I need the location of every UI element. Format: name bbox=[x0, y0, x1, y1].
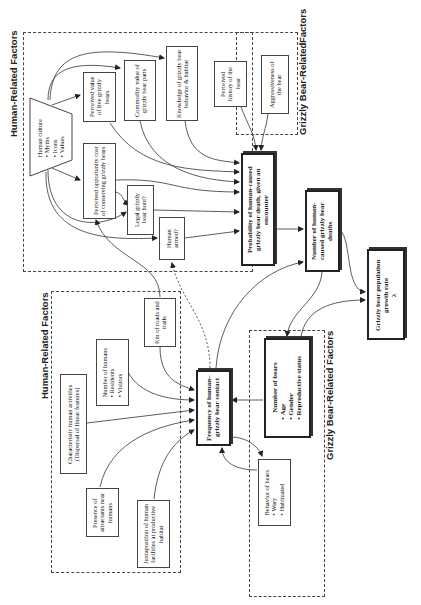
node-aggressiveness: Aggressiveness of the bear bbox=[261, 55, 289, 114]
number-bears-item: Reproductive status bbox=[296, 356, 304, 420]
node-text: Aggressiveness of the bear bbox=[268, 58, 283, 112]
node-text: Number of bears Age Gender Reproductive … bbox=[271, 356, 303, 420]
node-number-bears: Number of bears Age Gender Reproductive … bbox=[264, 338, 311, 438]
node-text: Grizzly bear population growth rate λ bbox=[374, 252, 398, 338]
region-label-top-bear-line1: Grizzly Bear-Related bbox=[298, 43, 308, 135]
node-number-humans: Number of humans Residents Visitors bbox=[96, 339, 129, 406]
node-juxtaposition: Juxtaposition of human facilities at pro… bbox=[137, 500, 170, 568]
node-text: Perceived history of the bear bbox=[219, 64, 241, 104]
node-human-culture: Human culture Myths Icons Values bbox=[32, 110, 70, 166]
node-text: Legal grizzly bear hunt? bbox=[133, 190, 148, 230]
node-opportunity-cost: Perceived opportunity cost of conserving… bbox=[83, 143, 116, 219]
human-culture-item: Values bbox=[58, 119, 65, 157]
human-culture-list: Myths Icons Values bbox=[44, 119, 66, 157]
node-perceived-value: Perceived value of live grizzly bears bbox=[83, 72, 116, 122]
number-bears-list: Age Gender Reproductive status bbox=[279, 356, 303, 420]
node-behavior-bears: Behavior of bears Wary Habituated bbox=[258, 459, 291, 526]
node-km-roads: Km of roads and trails bbox=[144, 298, 176, 347]
region-label-top-bear: Grizzly Bear-Related Factors bbox=[298, 32, 308, 135]
region-label-bottom-human: Human-Related Factors bbox=[40, 291, 50, 401]
node-text: Characteristic human activities (Dispers… bbox=[66, 376, 81, 472]
node-text: Behavior of bears Wary Habituated bbox=[263, 470, 285, 515]
node-human-armed: Human armed? bbox=[159, 217, 185, 260]
node-perceived-history: Perceived history of the bear bbox=[214, 61, 247, 107]
node-text: Presence of attractants near humans bbox=[91, 491, 113, 535]
region-label-top-bear-line2: Factors bbox=[298, 8, 308, 42]
node-knowledge: Knowledge of grizzly bear behavior & hab… bbox=[166, 46, 198, 121]
behavior-bears-item: Habituated bbox=[278, 470, 285, 515]
node-human-activities: Characteristic human activities (Dispers… bbox=[60, 374, 87, 474]
node-number-deaths: Number of human-caused grizzly bear deat… bbox=[305, 190, 340, 272]
growth-rate-label: Grizzly bear population growth rate bbox=[374, 259, 390, 330]
node-text: Number of humans Residents Visitors bbox=[101, 348, 123, 397]
node-growth-rate: Grizzly bear population growth rate λ bbox=[367, 249, 405, 340]
lambda-symbol: λ bbox=[390, 293, 398, 296]
node-text: Probability of human-caused grizzly bear… bbox=[246, 156, 270, 264]
node-probability-death: Probability of human-caused grizzly bear… bbox=[241, 153, 275, 266]
node-commodity-value: Commodity value of grizzly bear parts bbox=[124, 60, 156, 121]
node-text: Perceived value of live grizzly bears bbox=[88, 74, 110, 120]
behavior-bears-list: Wary Habituated bbox=[271, 470, 286, 515]
node-attractants: Presence of attractants near humans bbox=[86, 488, 119, 537]
region-label-bottom-bear: Grizzly Bear-Related Factors bbox=[325, 330, 335, 460]
node-text: Commodity value of grizzly bear parts bbox=[133, 63, 148, 119]
node-text: Perceived opportunity cost of conserving… bbox=[92, 145, 107, 217]
region-label-top-human: Human-Related Factors bbox=[9, 32, 19, 137]
node-legal-hunt: Legal grizzly bear hunt? bbox=[127, 185, 154, 235]
node-text: Juxtaposition of human facilities at pro… bbox=[142, 502, 164, 566]
node-text: Human armed? bbox=[165, 223, 180, 255]
node-text: Frequency of human–grizzly bear contact bbox=[205, 373, 221, 443]
number-humans-list: Residents Visitors bbox=[109, 348, 124, 397]
node-text: Number of human-caused grizzly bear deat… bbox=[310, 193, 334, 269]
number-humans-item: Visitors bbox=[116, 348, 123, 397]
node-text: Km of roads and trails bbox=[153, 301, 168, 345]
node-text: Knowledge of grizzly bear behavior & hab… bbox=[175, 49, 190, 119]
node-frequency-contact: Frequency of human–grizzly bear contact bbox=[196, 370, 231, 446]
